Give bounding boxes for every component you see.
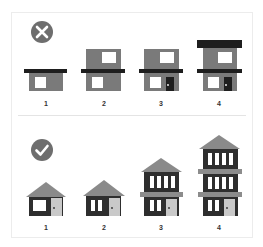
wrong-label-2: 2 — [94, 100, 114, 107]
wrong-house-1 — [24, 69, 67, 91]
right-house-4 — [198, 135, 242, 216]
wrong-label-1: 1 — [36, 100, 56, 107]
right-label-2: 2 — [94, 224, 114, 231]
right-house-2 — [83, 180, 125, 216]
diagram-canvas — [0, 0, 263, 247]
wrong-house-2 — [81, 49, 125, 91]
right-house-3 — [140, 158, 183, 216]
wrong-house-3 — [139, 49, 183, 91]
x-circle-icon — [31, 21, 53, 43]
check-circle-icon — [31, 139, 53, 161]
wrong-label-4: 4 — [209, 100, 229, 107]
wrong-label-3: 3 — [151, 100, 171, 107]
wrong-house-4 — [197, 40, 242, 91]
right-label-3: 3 — [151, 224, 171, 231]
right-label-1: 1 — [36, 224, 56, 231]
right-house-1 — [26, 182, 66, 216]
right-label-4: 4 — [209, 224, 229, 231]
